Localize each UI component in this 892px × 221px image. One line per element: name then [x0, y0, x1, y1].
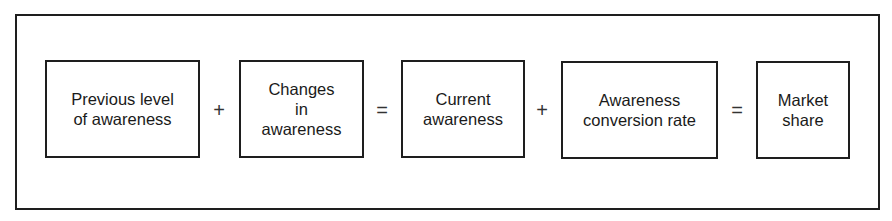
box-label: Market share	[778, 90, 828, 130]
equals-operator: =	[727, 100, 747, 120]
box-label: Awareness conversion rate	[583, 90, 696, 130]
box-current-awareness: Current awareness	[401, 60, 525, 158]
box-market-share: Market share	[756, 61, 850, 159]
box-previous-level-of-awareness: Previous level of awareness	[45, 60, 200, 158]
box-label: Changes in awareness	[262, 79, 342, 139]
equals-operator: =	[372, 100, 392, 120]
plus-operator: +	[209, 100, 229, 120]
plus-operator: +	[532, 100, 552, 120]
box-changes-in-awareness: Changes in awareness	[239, 60, 364, 158]
box-label: Current awareness	[423, 89, 503, 129]
box-label: Previous level of awareness	[71, 89, 174, 129]
box-awareness-conversion-rate: Awareness conversion rate	[561, 61, 718, 159]
